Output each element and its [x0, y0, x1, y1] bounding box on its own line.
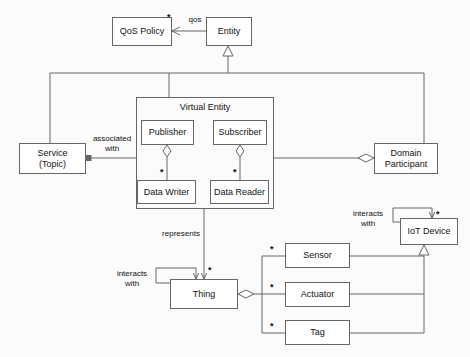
group-virtual-entity-title: Virtual Entity [137, 102, 273, 112]
edge-label-qos: qos [184, 15, 206, 25]
multiplicity-data-reader: * [233, 168, 237, 177]
node-qos-policy[interactable]: QoS Policy [112, 17, 172, 46]
node-iot-device-label: IoT Device [408, 226, 451, 237]
node-service-topic-label-line1: Service [37, 148, 67, 159]
aggregation-diamond-thing [238, 290, 254, 298]
multiplicity-qos-policy: * [167, 13, 171, 22]
node-publisher-label: Publisher [149, 127, 187, 138]
node-sensor[interactable]: Sensor [285, 243, 350, 268]
node-domain-participant-label-line2: Participant [385, 159, 428, 170]
multiplicity-data-writer: * [160, 168, 164, 177]
node-data-writer[interactable]: Data Writer [137, 180, 196, 204]
uml-class-diagram: QoS Policy Entity Virtual Entity Publish… [0, 0, 470, 357]
node-subscriber[interactable]: Subscriber [213, 120, 267, 145]
node-entity[interactable]: Entity [206, 17, 252, 46]
node-publisher[interactable]: Publisher [141, 120, 194, 145]
node-domain-participant[interactable]: Domain Participant [374, 143, 438, 174]
node-actuator[interactable]: Actuator [285, 282, 350, 307]
multiplicity-sensor: * [270, 245, 274, 254]
edge-label-thing-interacts-with: interacts with [110, 269, 154, 289]
node-domain-participant-label-line1: Domain [390, 148, 421, 159]
node-entity-label: Entity [218, 26, 241, 37]
node-tag[interactable]: Tag [285, 320, 350, 345]
node-service-topic-label-line2: (Topic) [39, 159, 66, 170]
node-actuator-label: Actuator [301, 289, 335, 300]
edge-label-iot-interacts-with: interacts with [346, 209, 390, 229]
association-endpoint-service [86, 156, 91, 161]
edge-label-associated-with: associated with [89, 134, 135, 154]
generalization-triangle-iot-device [419, 245, 429, 255]
multiplicity-thing: * [208, 266, 212, 275]
node-thing[interactable]: Thing [170, 279, 238, 309]
aggregation-diamond-domain-participant [358, 154, 374, 162]
node-service-topic[interactable]: Service (Topic) [19, 143, 86, 174]
node-data-writer-label: Data Writer [144, 187, 189, 198]
multiplicity-actuator: * [270, 283, 274, 292]
node-qos-policy-label: QoS Policy [120, 26, 165, 37]
node-sensor-label: Sensor [303, 250, 332, 261]
node-thing-label: Thing [193, 289, 216, 300]
generalization-triangle-entity [223, 46, 233, 56]
node-tag-label: Tag [310, 327, 325, 338]
multiplicity-iot-device: * [436, 210, 440, 219]
node-subscriber-label: Subscriber [218, 127, 261, 138]
node-data-reader-label: Data Reader [214, 187, 265, 198]
node-data-reader[interactable]: Data Reader [210, 180, 269, 204]
edge-label-represents: represents [157, 229, 205, 239]
node-iot-device[interactable]: IoT Device [400, 218, 458, 245]
multiplicity-tag: * [270, 322, 274, 331]
